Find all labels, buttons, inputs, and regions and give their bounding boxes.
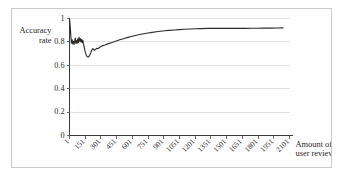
x-tick-label: 1351 — [196, 137, 213, 154]
x-tick-label: 601 — [120, 137, 134, 151]
x-tick-label: 151 — [72, 137, 86, 151]
y-axis-title: Accuracyrate — [19, 26, 52, 45]
x-tick-label: 751 — [135, 137, 149, 151]
x-tick-label: 1051 — [164, 137, 181, 154]
x-tick-label: 451 — [104, 137, 118, 151]
accuracy-rate-line-chart: 00.20.40.60.81 1151301451601751901105112… — [12, 9, 331, 167]
series-line-accuracy-rate — [70, 19, 284, 58]
x-axis-title-line: Amount of — [296, 140, 332, 149]
x-tick-labels: 1151301451601751901105112011351150116511… — [62, 137, 291, 154]
x-axis-title: Amount ofuser reviews — [296, 140, 332, 159]
data-series — [70, 19, 284, 58]
x-tick-label: 1651 — [227, 137, 244, 154]
y-axis-title-line: rate — [39, 36, 52, 45]
y-tick-label: 0.6 — [54, 61, 64, 70]
x-tick-label: 1501 — [211, 137, 228, 154]
chart-canvas: 00.20.40.60.81 1151301451601751901105112… — [12, 9, 331, 167]
y-axis — [67, 19, 70, 136]
y-tick-label: 0.8 — [54, 37, 64, 46]
x-tick-label: 301 — [88, 137, 102, 151]
y-axis-title-line: Accuracy — [19, 26, 52, 35]
x-tick-label: 2101 — [274, 137, 291, 154]
x-tick-label: 1951 — [258, 137, 275, 154]
y-tick-labels: 00.20.40.60.81 — [54, 14, 64, 140]
chart-figure: 00.20.40.60.81 1151301451601751901105112… — [11, 8, 332, 168]
x-axis-title-line: user reviews — [296, 149, 332, 158]
y-tick-label: 0.2 — [54, 107, 64, 116]
x-tick-label: 1201 — [180, 137, 197, 154]
y-tick-label: 0.4 — [54, 84, 64, 93]
y-tick-label: 1 — [60, 14, 64, 23]
x-axis — [70, 136, 293, 139]
gridlines — [70, 19, 290, 113]
x-tick-label: 1801 — [243, 137, 260, 154]
x-tick-label: 901 — [151, 137, 165, 151]
